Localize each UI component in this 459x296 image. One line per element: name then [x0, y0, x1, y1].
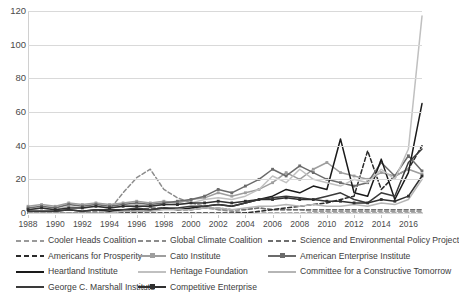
- series-marker: [366, 202, 369, 205]
- y-axis-tick-label: 60: [15, 107, 26, 117]
- series-marker: [244, 191, 247, 194]
- series-marker: [285, 171, 288, 174]
- legend-item[interactable]: Heritage Foundation: [138, 264, 248, 279]
- x-axis-tick-label: 2008: [290, 220, 309, 229]
- x-axis-tick-mark: [327, 215, 328, 218]
- series-marker: [81, 207, 84, 210]
- series-marker: [339, 171, 342, 174]
- series-marker: [312, 171, 315, 174]
- legend-label: Science and Environmental Policy Project: [300, 236, 459, 245]
- series-marker: [421, 175, 424, 178]
- plot-area: [28, 11, 422, 213]
- x-axis-tick-label: 1990: [46, 220, 65, 229]
- series-marker: [312, 198, 315, 201]
- gridline: [28, 112, 422, 113]
- x-axis-tick-label: 2000: [182, 220, 201, 229]
- x-axis-tick-mark: [28, 215, 29, 218]
- legend-row: George C. Marshall InstituteCompetitive …: [0, 280, 426, 295]
- legend-item[interactable]: Competitive Enterprise: [138, 280, 257, 295]
- legend-swatch-icon: [138, 236, 166, 246]
- legend-swatch-icon: [268, 267, 296, 277]
- chart-legend: Cooler Heads CoalitionGlobal Climate Coa…: [0, 233, 426, 296]
- series-marker: [230, 191, 233, 194]
- legend-label: Global Climate Coalition: [170, 236, 262, 245]
- y-axis-labels: 020406080100120: [0, 0, 26, 232]
- series-marker: [244, 200, 247, 203]
- legend-label: American Enterprise Institute: [300, 252, 410, 261]
- series-marker: [421, 170, 424, 173]
- x-axis-tick-mark: [82, 215, 83, 218]
- x-axis-tick-mark: [110, 215, 111, 218]
- series-marker: [380, 198, 383, 201]
- series-marker: [380, 171, 383, 174]
- legend-item[interactable]: American Enterprise Institute: [268, 249, 410, 264]
- legend-item[interactable]: Science and Environmental Policy Project: [268, 233, 459, 248]
- legend-swatch-icon: [16, 251, 44, 261]
- legend-row: Cooler Heads CoalitionGlobal Climate Coa…: [0, 233, 426, 248]
- x-axis-tick-label: 2016: [399, 220, 418, 229]
- y-axis-tick-label: 120: [10, 6, 26, 16]
- gridline: [28, 78, 422, 79]
- x-axis-tick-label: 2002: [209, 220, 228, 229]
- y-axis-tick-label: 80: [15, 74, 26, 84]
- series-marker: [217, 188, 220, 191]
- legend-row: Americans for ProsperityCato InstituteAm…: [0, 249, 426, 264]
- legend-swatch-icon: [138, 251, 166, 261]
- legend-swatch-icon: [268, 236, 296, 246]
- x-axis-tick-label: 2004: [236, 220, 255, 229]
- gridline: [28, 213, 422, 214]
- y-axis-tick-label: 0: [21, 208, 26, 218]
- x-axis-tick-mark: [55, 215, 56, 218]
- series-marker: [339, 181, 342, 184]
- x-axis-tick-label: 1988: [19, 220, 38, 229]
- series-marker: [353, 175, 356, 178]
- y-axis-tick-label: 20: [15, 175, 26, 185]
- legend-label: Heartland Institute: [48, 267, 118, 276]
- legend-label: Americans for Prosperity: [48, 252, 142, 261]
- legend-item[interactable]: Committee for a Constructive Tomorrow: [268, 264, 451, 279]
- legend-item[interactable]: Cato Institute: [138, 249, 221, 264]
- x-axis-tick-label: 1994: [100, 220, 119, 229]
- x-axis-tick-mark: [381, 215, 382, 218]
- legend-label: Competitive Enterprise: [170, 283, 257, 292]
- series-marker: [176, 200, 179, 203]
- series-marker: [230, 202, 233, 205]
- legend-item[interactable]: Global Climate Coalition: [138, 233, 262, 248]
- legend-item[interactable]: George C. Marshall Institute: [16, 280, 155, 295]
- legend-swatch-icon: [16, 282, 44, 292]
- series-marker: [271, 168, 274, 171]
- legend-item[interactable]: Cooler Heads Coalition: [16, 233, 136, 248]
- legend-swatch-icon: [16, 236, 44, 246]
- series-marker: [217, 200, 220, 203]
- series-marker: [407, 154, 410, 157]
- series-marker: [95, 205, 98, 208]
- series-marker: [54, 208, 57, 211]
- series-marker: [217, 191, 220, 194]
- x-axis-tick-label: 2006: [263, 220, 282, 229]
- series-marker: [271, 198, 274, 201]
- x-axis-tick-mark: [408, 215, 409, 218]
- series-marker: [190, 198, 193, 201]
- series-marker: [244, 185, 247, 188]
- legend-item[interactable]: Americans for Prosperity: [16, 249, 142, 264]
- series-marker: [190, 202, 193, 205]
- legend-label: Cato Institute: [170, 252, 221, 261]
- series-marker: [258, 198, 261, 201]
- gridline: [28, 179, 422, 180]
- series-marker: [393, 200, 396, 203]
- x-axis-tick-mark: [164, 215, 165, 218]
- y-axis-tick-label: 100: [10, 40, 26, 50]
- series-marker: [312, 168, 315, 171]
- x-axis-tick-mark: [273, 215, 274, 218]
- legend-row: Heartland InstituteHeritage FoundationCo…: [0, 264, 426, 279]
- x-axis-tick-label: 2010: [317, 220, 336, 229]
- x-axis-tick-label: 2014: [372, 220, 391, 229]
- x-axis-tick-mark: [218, 215, 219, 218]
- plot-wrapper: 020406080100120 198819901992199419961998…: [0, 0, 426, 232]
- series-marker: [162, 203, 165, 206]
- legend-item[interactable]: Heartland Institute: [16, 264, 118, 279]
- series-marker: [203, 195, 206, 198]
- series-marker: [149, 205, 152, 208]
- series-marker: [108, 207, 111, 210]
